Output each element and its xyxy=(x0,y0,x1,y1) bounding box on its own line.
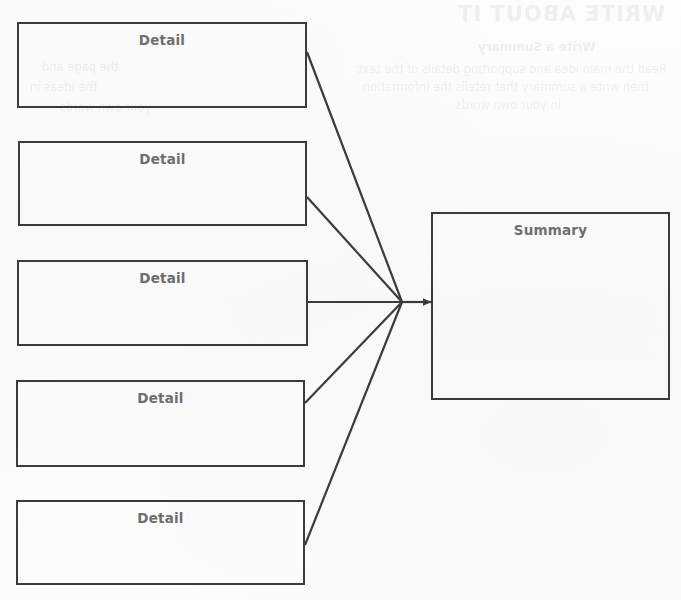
connector-detail-2-to-summary xyxy=(307,197,402,302)
detail-box-1-label: Detail xyxy=(19,32,305,48)
detail-box-3[interactable]: Detail xyxy=(17,260,308,346)
connector-detail-1-to-summary xyxy=(307,52,402,302)
connector-detail-4-to-summary xyxy=(305,302,402,403)
summary-box[interactable]: Summary xyxy=(431,212,670,400)
detail-box-4-label: Detail xyxy=(18,390,303,406)
diagram-page: WRITE ABOUT IT Write a Summary Read the … xyxy=(0,0,681,600)
detail-box-5-label: Detail xyxy=(18,510,303,526)
summary-box-label: Summary xyxy=(433,222,668,238)
detail-box-1[interactable]: Detail xyxy=(17,22,307,108)
connector-detail-5-to-summary xyxy=(305,302,402,545)
detail-box-3-label: Detail xyxy=(19,270,306,286)
detail-box-2-label: Detail xyxy=(20,151,305,167)
detail-box-5[interactable]: Detail xyxy=(16,500,305,585)
detail-box-2[interactable]: Detail xyxy=(18,141,307,226)
detail-box-4[interactable]: Detail xyxy=(16,380,305,467)
